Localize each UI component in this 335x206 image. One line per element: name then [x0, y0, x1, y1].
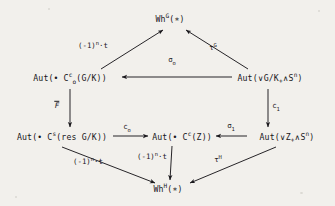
scan-speck [15, 196, 17, 198]
node-aut-c-c-z-base: C [178, 132, 188, 142]
node-aut-c-o-c-base: C [59, 73, 69, 83]
node-aut-c-o-c-prefix: Aut( [33, 73, 53, 83]
label-superscript: H [219, 154, 222, 160]
label-base: F [54, 101, 59, 109]
arrow-label-tau-g: τG [209, 44, 217, 51]
commutative-diagram: WhG(∗) Aut(• Cco(G/K)) Aut(∨G/K+∧Sn) Aut… [0, 0, 335, 206]
arrow-label-f-bar: F [54, 101, 59, 109]
arrow-path-aut-c-o-c-to-wh-g [101, 30, 163, 69]
node-aut-c-s-res-inner: (res G/K)) [56, 132, 107, 142]
scan-speck [300, 192, 303, 194]
node-aut-c-o-c-gk: Aut(• Cco(G/K)) [33, 74, 107, 82]
node-aut-wedge-gk-smash-sn: Aut(∨G/K+∧Sn) [237, 74, 302, 83]
node-aut-wedge-z-suffix: ) [309, 132, 314, 142]
arrow-label-aut-c-s-res-to-wh-h: (-1)n·t [73, 158, 103, 165]
label-superscript: G [214, 42, 217, 48]
arrow-label-tau-h: τH [214, 156, 222, 163]
label-tail: ·t [94, 157, 103, 166]
arrow-label-sigma-o: σo [168, 56, 176, 63]
node-wh-h: WhH(∗) [153, 185, 182, 193]
arrow-layer [0, 0, 335, 206]
node-aut-wedge-gk-suffix: ) [297, 73, 302, 83]
node-wh-g: WhG(∗) [155, 15, 184, 23]
node-aut-c-s-res-gk: Aut(• Cs(res G/K)) [17, 133, 107, 141]
node-aut-c-o-c-inner: (G/K)) [76, 73, 106, 83]
arrow-label-c-o: co [123, 123, 131, 130]
node-aut-c-c-z-inner: (Z)) [191, 132, 211, 142]
label-subscript: o [128, 127, 131, 133]
arrow-label-c-1: c1 [272, 102, 280, 109]
arrow-path-aut-wedge-gk-to-wh-g [186, 30, 248, 69]
arrow-label-sigma-1: σ1 [227, 122, 235, 129]
arrow-path-aut-c-c-z-to-wh-h [170, 146, 172, 180]
scan-speck [318, 10, 320, 12]
label-tail: ·t [158, 152, 167, 161]
node-wh-h-argument: (∗) [167, 184, 182, 194]
label-subscript: 1 [232, 126, 235, 132]
node-aut-c-s-res-base: C [42, 132, 52, 142]
label-base: (-1) [73, 157, 91, 166]
node-aut-c-s-res-prefix: Aut( [17, 132, 37, 142]
label-subscript: o [173, 60, 176, 66]
arrow-label-aut-c-c-z-to-wh-h: (-1)n·t [137, 153, 167, 160]
label-subscript: 1 [277, 106, 280, 112]
label-tail: ·t [99, 41, 108, 50]
scan-speck [48, 8, 50, 10]
node-aut-c-c-z: Aut(• Cc(Z)) [152, 133, 212, 141]
node-aut-wedge-gk-inner: G/K [264, 73, 279, 83]
label-base: (-1) [78, 41, 96, 50]
node-wh-g-argument: (∗) [169, 14, 184, 24]
arrow-path-aut-wedge-z-to-wh-h [190, 147, 276, 183]
node-aut-wedge-z-prefix: Aut( [260, 132, 280, 142]
node-aut-c-c-z-prefix: Aut( [152, 132, 172, 142]
node-aut-wedge-z-smash-sn: Aut(∨Z+∧Sn) [260, 133, 315, 142]
node-aut-wedge-gk-prefix: Aut( [237, 73, 257, 83]
node-wh-h-base: Wh [153, 184, 163, 194]
label-base: (-1) [137, 152, 155, 161]
arrow-label-aut-c-o-c-to-wh-g: (-1)n·t [78, 42, 108, 49]
node-wh-g-base: Wh [155, 14, 165, 24]
